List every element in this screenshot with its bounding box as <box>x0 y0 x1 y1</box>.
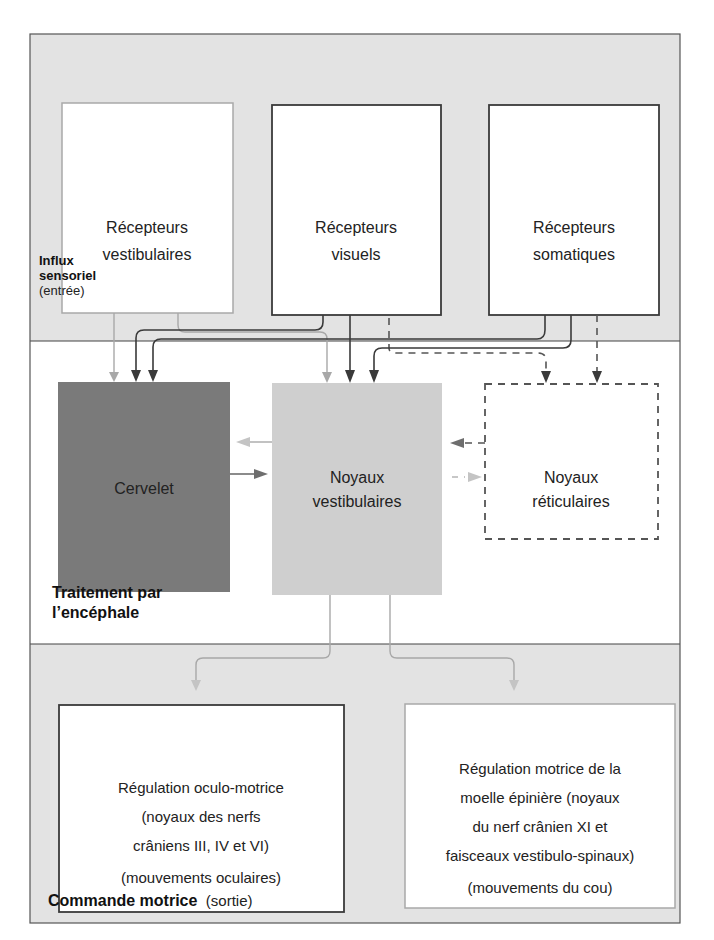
spinal-line4: faisceaux vestibulo-spinaux) <box>446 847 634 864</box>
vestibular-nuclei-line2: vestibulaires <box>313 493 402 510</box>
oculomotor-line3: crâniens III, IV et VI) <box>133 837 269 854</box>
receptor-somatiques-line2: somatiques <box>533 246 615 263</box>
output-title: Commande motrice (sortie) <box>48 892 253 909</box>
spinal-line2: moelle épinière (noyaux <box>460 789 620 806</box>
oculomotor-line4: (mouvements oculaires) <box>121 869 281 886</box>
spinal-line1: Régulation motrice de la <box>459 760 621 777</box>
input-title-line1: Influx <box>39 253 74 268</box>
receptor-vestibulaires-line1: Récepteurs <box>106 219 188 236</box>
input-title-line3: (entrée) <box>39 283 85 298</box>
spinal-motor-box: Régulation motrice de la moelle épinière… <box>405 704 675 908</box>
receptor-visuels-line2: visuels <box>332 246 381 263</box>
cervelet-box: Cervelet <box>58 382 230 592</box>
receptor-somatiques-line1: Récepteurs <box>533 219 615 236</box>
receptor-vestibulaires-line2: vestibulaires <box>103 246 192 263</box>
oculomotor-line2: (noyaux des nerfs <box>141 808 260 825</box>
output-title-bold: Commande motrice <box>48 892 197 909</box>
receptor-visuels-box: Récepteurs visuels <box>272 105 441 315</box>
cervelet-label: Cervelet <box>114 480 174 497</box>
receptor-somatiques-box: Récepteurs somatiques <box>489 105 659 315</box>
spinal-line3: du nerf crânien XI et <box>472 818 608 835</box>
vestibular-pathway-diagram: Récepteurs vestibulaires Récepteurs visu… <box>0 0 714 940</box>
reticular-nuclei-line2: réticulaires <box>532 493 609 510</box>
oculomotor-line1: Régulation oculo-motrice <box>118 779 284 796</box>
processing-title-line2: l’encéphale <box>52 604 139 621</box>
input-title-line2: sensoriel <box>39 268 96 283</box>
spinal-line5: (mouvements du cou) <box>467 879 612 896</box>
processing-title-line1: Traitement par <box>52 584 162 601</box>
output-title-normal: (sortie) <box>206 892 253 909</box>
vestibular-nuclei-line1: Noyaux <box>330 469 384 486</box>
reticular-nuclei-line1: Noyaux <box>544 469 598 486</box>
reticular-nuclei-box: Noyaux réticulaires <box>485 384 658 539</box>
oculomotor-box: Régulation oculo-motrice (noyaux des ner… <box>59 705 344 912</box>
vestibular-nuclei-box: Noyaux vestibulaires <box>272 383 442 595</box>
receptor-visuels-line1: Récepteurs <box>315 219 397 236</box>
